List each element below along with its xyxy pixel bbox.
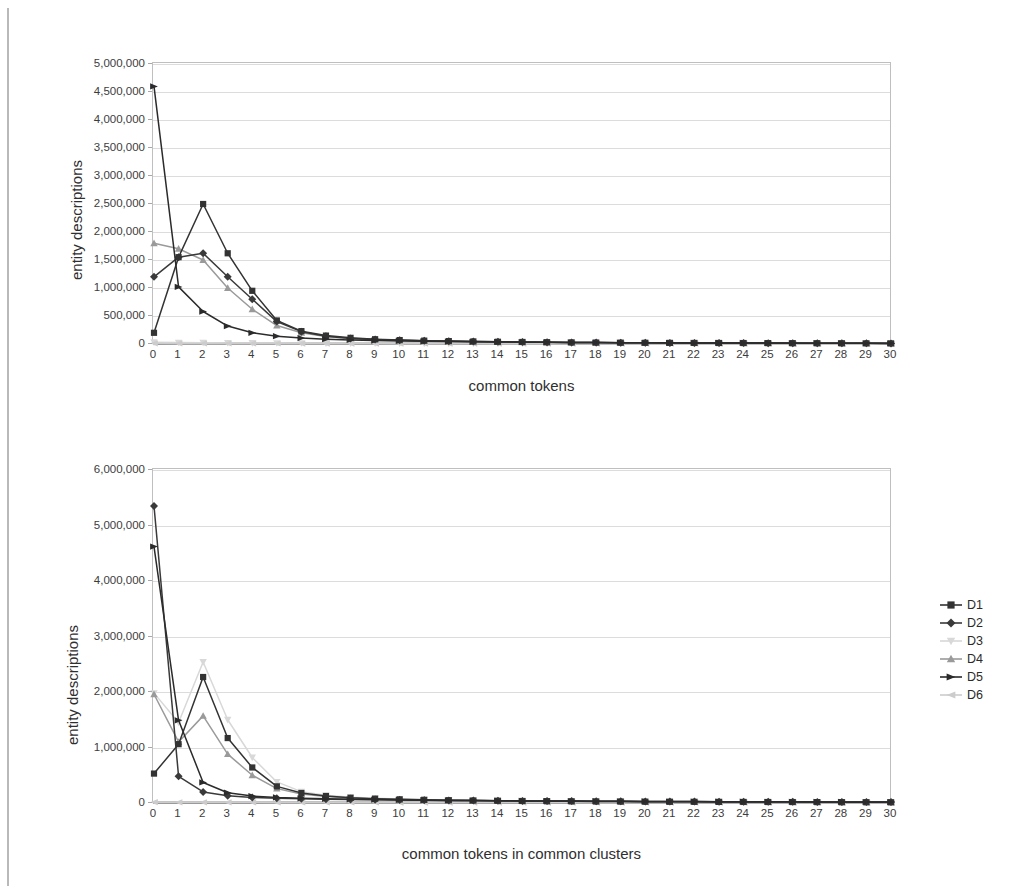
y-axis-tick-label: 6,000,000 — [94, 463, 145, 475]
legend-item-d2: D2 — [938, 614, 1008, 632]
legend-item-d1: D1 — [938, 596, 1008, 614]
x-axis-tick-label: 30 — [884, 807, 897, 819]
data-point-marker — [199, 799, 207, 805]
legend-item-d4: D4 — [938, 650, 1008, 668]
data-point-marker — [175, 772, 183, 780]
x-axis-tick-label: 29 — [859, 807, 872, 819]
bottom-chart-y-axis-title: entity descriptions — [64, 625, 81, 745]
legend-item-label: D4 — [964, 653, 983, 666]
y-axis-tick-label: 5,000,000 — [94, 519, 145, 531]
x-axis-tick-label: 14 — [491, 807, 504, 819]
series-legend: D1D2D3D4D5D6 — [938, 596, 1008, 704]
series-d3 — [150, 659, 894, 806]
data-point-marker — [151, 770, 157, 776]
series-line — [154, 547, 891, 802]
y-axis-tick-label: 4,000,000 — [94, 574, 145, 586]
x-axis-tick-label: 19 — [613, 807, 626, 819]
x-axis-tick-label: 13 — [466, 807, 479, 819]
y-axis-tick-mark — [148, 747, 152, 748]
legend-item-label: D5 — [964, 671, 983, 684]
data-point-marker — [199, 659, 206, 666]
series-line — [154, 506, 891, 802]
y-axis-tick-mark — [148, 636, 152, 637]
legend-item-d3: D3 — [938, 632, 1008, 650]
y-axis-tick-label: 1,000,000 — [94, 741, 145, 753]
y-axis-tick-label: 3,000,000 — [94, 630, 145, 642]
data-point-marker — [249, 764, 255, 770]
series-d5 — [150, 543, 895, 805]
legend-item-label: D3 — [964, 635, 983, 648]
y-axis-tick-mark — [148, 469, 152, 470]
series-d4 — [150, 691, 894, 806]
x-axis-tick-label: 7 — [322, 807, 328, 819]
x-axis-tick-label: 5 — [273, 807, 279, 819]
series-line — [154, 694, 891, 802]
data-point-marker — [175, 799, 183, 805]
legend-marker-icon — [938, 616, 964, 630]
x-axis-tick-label: 10 — [392, 807, 405, 819]
x-axis-tick-label: 21 — [662, 807, 675, 819]
y-axis-tick-mark — [148, 691, 152, 692]
y-axis-tick-mark — [148, 802, 152, 803]
x-axis-tick-label: 24 — [736, 807, 749, 819]
bottom-chart-x-axis-title: common tokens in common clusters — [152, 845, 891, 862]
data-point-marker — [150, 502, 158, 510]
x-axis-tick-label: 15 — [515, 807, 528, 819]
x-axis-tick-label: 20 — [638, 807, 651, 819]
x-axis-tick-label: 28 — [834, 807, 847, 819]
legend-item-d6: D6 — [938, 686, 1008, 704]
x-axis-tick-label: 25 — [761, 807, 774, 819]
legend-marker-icon — [938, 652, 964, 666]
x-axis-tick-label: 3 — [223, 807, 229, 819]
x-axis-tick-label: 11 — [417, 807, 429, 819]
x-axis-tick-label: 12 — [441, 807, 454, 819]
x-axis-tick-label: 22 — [687, 807, 700, 819]
x-axis-tick-label: 4 — [248, 807, 254, 819]
legend-item-label: D1 — [964, 599, 983, 612]
series-layer — [153, 469, 892, 803]
x-axis-tick-label: 18 — [589, 807, 602, 819]
data-point-marker — [224, 799, 232, 805]
data-point-marker — [175, 741, 181, 747]
data-point-marker — [199, 779, 207, 785]
legend-marker-icon — [938, 634, 964, 648]
legend-item-d5: D5 — [938, 668, 1008, 686]
data-point-marker — [274, 783, 280, 789]
series-d2 — [150, 502, 895, 806]
legend-marker-icon — [938, 688, 964, 702]
legend-marker-icon — [938, 670, 964, 684]
y-axis-tick-label: 0 — [139, 796, 145, 808]
x-axis-tick-label: 17 — [564, 807, 577, 819]
data-point-marker — [199, 712, 206, 719]
x-axis-tick-label: 1 — [174, 807, 180, 819]
data-point-marker — [200, 674, 206, 680]
x-axis-tick-label: 16 — [540, 807, 553, 819]
x-axis-tick-label: 8 — [346, 807, 352, 819]
y-axis-tick-mark — [148, 580, 152, 581]
x-axis-tick-label: 0 — [150, 807, 156, 819]
x-axis-tick-label: 6 — [297, 807, 303, 819]
x-axis-tick-label: 9 — [371, 807, 377, 819]
data-point-marker — [298, 790, 304, 796]
data-point-marker — [225, 735, 231, 741]
x-axis-tick-label: 27 — [810, 807, 823, 819]
legend-item-label: D6 — [964, 689, 983, 702]
x-axis-tick-label: 2 — [199, 807, 205, 819]
series-line — [154, 677, 891, 802]
legend-marker-icon — [938, 598, 964, 612]
y-axis-tick-mark — [148, 525, 152, 526]
bottom-chart-plot-area — [152, 468, 891, 802]
chart-common-tokens-in-common-clusters: entity descriptions common tokens in com… — [0, 0, 1013, 886]
legend-item-label: D2 — [964, 617, 983, 630]
y-axis-tick-label: 2,000,000 — [94, 685, 145, 697]
x-axis-tick-label: 26 — [785, 807, 798, 819]
data-point-marker — [199, 788, 207, 796]
series-d1 — [151, 674, 894, 805]
x-axis-tick-label: 23 — [712, 807, 725, 819]
